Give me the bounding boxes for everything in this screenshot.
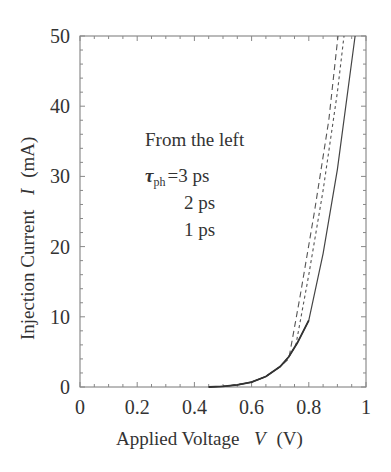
y-axis-label: Injection Current I (mA) (17, 137, 39, 340)
y-tick-label: 40 (50, 95, 70, 117)
annotation-1ps: 1 ps (184, 219, 215, 240)
x-tick-label: 0 (75, 396, 85, 418)
x-axis-label: Applied Voltage V (V) (116, 428, 303, 450)
x-tick-label: 0.8 (296, 396, 321, 418)
curve-common-segment (209, 320, 309, 387)
y-tick-labels: 01020304050 (50, 25, 70, 398)
annotation: From the left τph=3 ps 2 ps 1 ps (145, 129, 245, 240)
y-tick-label: 30 (50, 165, 70, 187)
axis-ticks (80, 36, 366, 387)
x-tick-label: 0.4 (182, 396, 207, 418)
y-tick-label: 20 (50, 236, 70, 258)
annotation-line1: From the left (145, 129, 245, 150)
x-tick-labels: 00.20.40.60.81 (75, 396, 371, 418)
annotation-tau: τph=3 ps (145, 165, 209, 189)
curves (209, 36, 355, 387)
y-tick-label: 0 (60, 376, 70, 398)
y-tick-label: 50 (50, 25, 70, 47)
plot-frame (80, 36, 366, 387)
x-tick-label: 1 (361, 396, 371, 418)
curve-dotted (209, 36, 344, 387)
x-tick-label: 0.6 (239, 396, 264, 418)
annotation-2ps: 2 ps (184, 192, 215, 213)
iv-chart: 00.20.40.60.81 01020304050 Applied Volta… (0, 0, 391, 472)
curve-dashed (209, 36, 338, 387)
y-tick-label: 10 (50, 306, 70, 328)
curve-solid (209, 36, 355, 387)
x-tick-label: 0.2 (125, 396, 150, 418)
